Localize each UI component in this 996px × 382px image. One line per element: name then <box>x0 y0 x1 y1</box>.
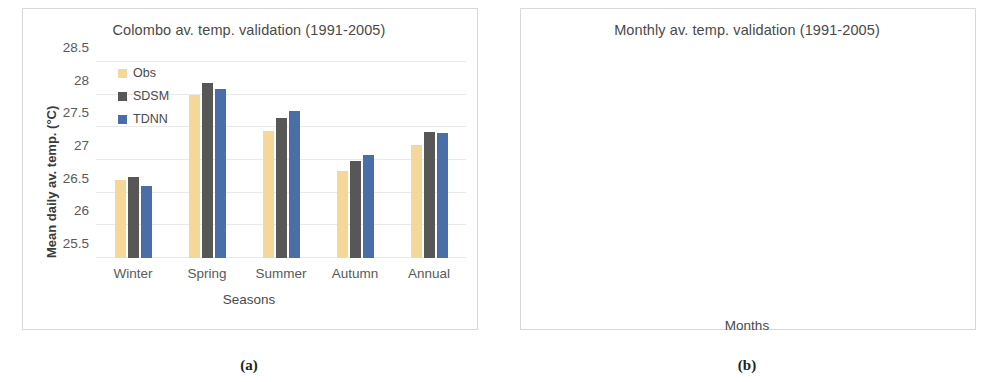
legend-swatch-obs-icon <box>118 69 127 78</box>
bar-sdsm <box>424 132 435 258</box>
legend-item-tdnn: TDNN <box>118 112 169 126</box>
figure-two-panel-bar-charts: Colombo av. temp. validation (1991-2005)… <box>0 0 996 382</box>
panel-b-border <box>520 8 976 330</box>
x-tick-label: Winter <box>96 258 170 281</box>
y-tick-label: 26.5 <box>63 170 96 185</box>
panel-b: Monthly av. temp. validation (1991-2005)… <box>498 0 996 382</box>
bar-obs <box>337 171 348 258</box>
legend-label-sdsm: SDSM <box>133 89 169 103</box>
panel-a-x-tick-labels: WinterSpringSummerAutumnAnnual <box>96 258 466 281</box>
y-tick-label: 27.5 <box>63 105 96 120</box>
panel-a-legend: Obs SDSM TDNN <box>118 66 169 126</box>
bar-tdnn <box>141 186 152 258</box>
legend-item-obs: Obs <box>118 66 169 80</box>
bar-sdsm <box>350 161 361 258</box>
y-tick-label: 28.5 <box>63 40 96 55</box>
x-tick-label: Summer <box>244 258 318 281</box>
panel-b-x-axis-title: Months <box>498 318 996 333</box>
panel-a-title: Colombo av. temp. validation (1991-2005) <box>0 22 498 38</box>
y-tick-label: 26 <box>74 203 96 218</box>
bar-tdnn <box>289 111 300 258</box>
panel-a-x-axis-title: Seasons <box>0 292 498 307</box>
bar-obs <box>189 95 200 258</box>
x-tick-label: Annual <box>392 258 466 281</box>
legend-swatch-tdnn-icon <box>118 115 127 124</box>
bar-obs <box>115 180 126 258</box>
panel-b-caption: (b) <box>498 357 996 374</box>
legend-swatch-sdsm-icon <box>118 92 127 101</box>
bar-group <box>392 62 466 258</box>
bar-group <box>244 62 318 258</box>
bar-obs <box>263 131 274 258</box>
y-tick-label: 28 <box>74 72 96 87</box>
panel-a: Colombo av. temp. validation (1991-2005)… <box>0 0 498 382</box>
legend-item-sdsm: SDSM <box>118 89 169 103</box>
panel-b-title: Monthly av. temp. validation (1991-2005) <box>498 22 996 38</box>
x-tick-label: Spring <box>170 258 244 281</box>
bar-sdsm <box>202 83 213 258</box>
bar-obs <box>411 145 422 258</box>
bar-sdsm <box>128 177 139 258</box>
y-tick-label: 27 <box>74 138 96 153</box>
panel-a-y-axis-title: Mean daily av. temp. (°C) <box>44 106 59 258</box>
panel-a-caption: (a) <box>0 357 498 374</box>
x-tick-label: Autumn <box>318 258 392 281</box>
bar-tdnn <box>363 155 374 258</box>
y-tick-label: 25.5 <box>63 236 96 251</box>
bar-sdsm <box>276 118 287 258</box>
bar-group <box>318 62 392 258</box>
bar-tdnn <box>215 89 226 258</box>
legend-label-tdnn: TDNN <box>133 112 168 126</box>
bar-tdnn <box>437 133 448 258</box>
bar-group <box>170 62 244 258</box>
legend-label-obs: Obs <box>133 66 156 80</box>
